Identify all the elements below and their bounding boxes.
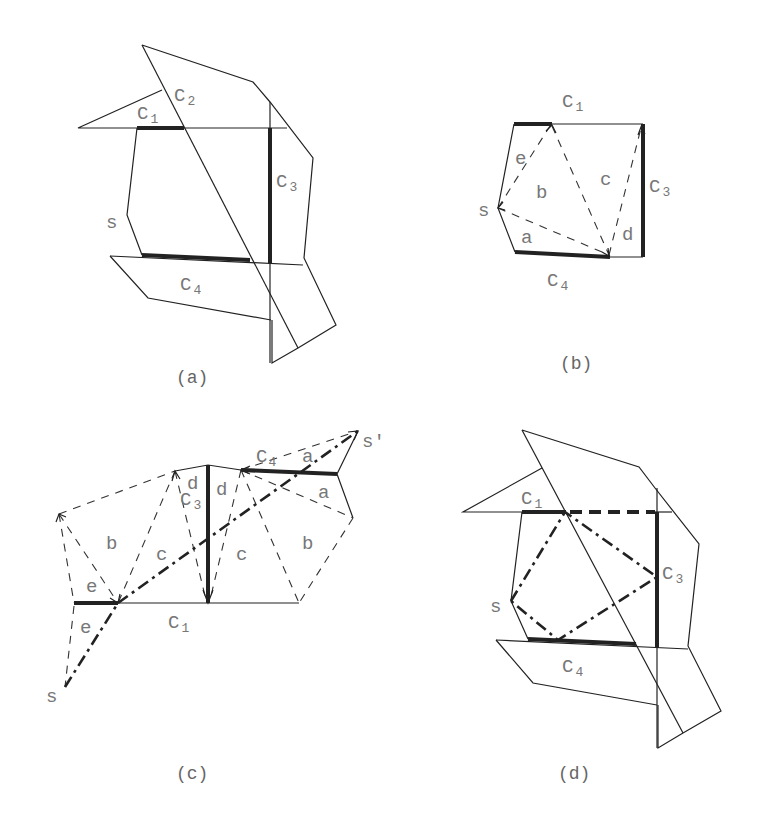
left-boundary <box>127 128 142 255</box>
shortest-path <box>118 431 358 603</box>
label-c1: C1 <box>137 103 158 127</box>
caption-d: (d) <box>558 764 590 784</box>
label-c2: C2 <box>174 85 195 109</box>
region-e: e <box>515 148 526 170</box>
panel-d: C1 C3 C4 s (d) <box>463 430 721 784</box>
label-s-prime: s′ <box>362 431 385 453</box>
region-e: e <box>80 617 91 639</box>
region-c: c <box>600 169 611 191</box>
shortest-path <box>65 603 118 687</box>
figure-canvas: C1 C2 C3 C4 s (a) C1 C3 C4 s a b c d e (… <box>0 0 763 822</box>
caption-c: (c) <box>176 764 208 784</box>
c1-triangle <box>463 468 566 512</box>
shortest-tour <box>511 512 657 640</box>
outer-polygon <box>522 430 721 748</box>
c4-edge <box>241 470 337 474</box>
right-boundary <box>337 431 358 518</box>
label-c1: C1 <box>521 488 542 512</box>
region-c: c <box>236 544 247 566</box>
label-s: s <box>106 212 117 234</box>
label-c1: C1 <box>168 612 189 636</box>
dash-edge <box>59 514 74 603</box>
label-c3: C3 <box>276 171 297 195</box>
dash-edge <box>59 471 175 514</box>
label-s: s <box>46 686 57 708</box>
region-d: d <box>216 479 227 501</box>
dash-edge <box>299 518 353 603</box>
caption-a: (a) <box>176 368 208 388</box>
region-d: d <box>622 224 633 246</box>
label-c4: C4 <box>562 656 583 680</box>
region-a: a <box>302 446 313 468</box>
label-c3: C3 <box>649 176 670 200</box>
label-c3: C3 <box>662 563 683 587</box>
label-s: s <box>490 596 501 618</box>
dash-edge <box>241 470 299 603</box>
region-b: b <box>302 533 313 555</box>
label-c1: C1 <box>562 91 583 115</box>
panel-c: C1 C3 C4 s s′ e e b c d d c b a a (c) <box>46 431 385 784</box>
c4-edge <box>528 639 636 644</box>
panel-a: C1 C2 C3 C4 s (a) <box>78 45 336 388</box>
label-c4: C4 <box>547 270 568 294</box>
outer-polygon <box>142 45 336 363</box>
caption-b: (b) <box>560 354 592 374</box>
dash-edge <box>65 606 74 687</box>
region-b: b <box>106 533 117 555</box>
label-s: s <box>478 200 489 222</box>
region-e: e <box>86 576 97 598</box>
left-boundary <box>498 124 515 252</box>
c2-diagonal <box>142 45 298 348</box>
region-b: b <box>536 182 547 204</box>
c4-edge <box>515 252 610 257</box>
panel-b: C1 C3 C4 s a b c d e (b) <box>478 91 670 374</box>
dash-edge <box>241 470 353 518</box>
region-a: a <box>318 482 329 504</box>
path-a <box>498 208 609 255</box>
label-c4: C4 <box>180 274 201 298</box>
label-c4: C4 <box>256 446 276 470</box>
region-d: d <box>187 473 198 495</box>
region-c: c <box>156 544 167 566</box>
c4-edge <box>142 255 250 260</box>
region-a: a <box>521 227 532 249</box>
